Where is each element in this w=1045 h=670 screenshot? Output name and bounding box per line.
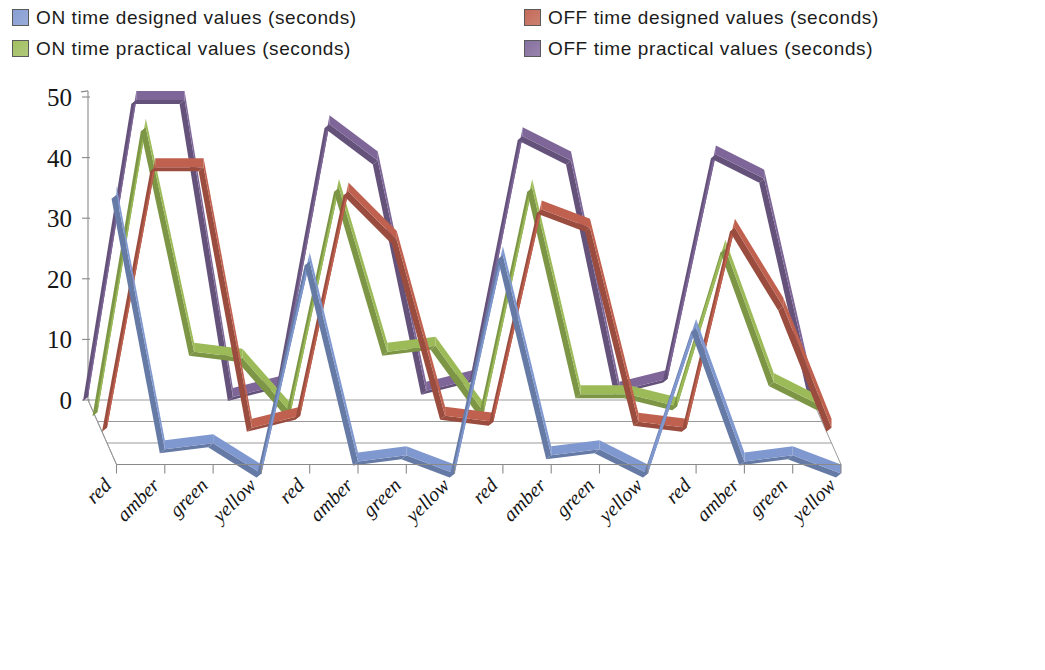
ribbon-top-face bbox=[668, 145, 716, 378]
chart-legend: ON time designed values (seconds) OFF ti… bbox=[12, 2, 1037, 64]
legend-item-on-practical[interactable]: ON time practical values (seconds) bbox=[12, 33, 524, 64]
x-axis-tick-label: green bbox=[744, 474, 792, 522]
y-axis-tick-label: 0 bbox=[60, 387, 73, 414]
x-axis-tick-label: yellow bbox=[786, 473, 841, 528]
legend-swatch-purple-icon bbox=[524, 40, 541, 57]
legend-row-1: ON time designed values (seconds) OFF ti… bbox=[12, 2, 1037, 33]
x-axis-tick-label: red bbox=[661, 473, 696, 508]
x-axis-tick-label: amber bbox=[498, 474, 550, 526]
ribbon-top-face bbox=[136, 91, 184, 100]
x-axis-tick-label: green bbox=[551, 474, 599, 522]
legend-swatch-red-icon bbox=[524, 9, 541, 26]
legend-label-on-practical: ON time practical values (seconds) bbox=[36, 38, 351, 60]
ribbon-top-face bbox=[98, 119, 146, 413]
x-axis-tick-label: green bbox=[165, 474, 213, 522]
y-axis-tick-label: 30 bbox=[47, 205, 72, 232]
ribbon-top-face bbox=[330, 115, 378, 160]
x-axis-tick-label: yellow bbox=[206, 473, 261, 528]
chart-canvas: 01020304050 redambergreenyellowredamberg… bbox=[0, 64, 1045, 670]
ribbon-side-face bbox=[150, 167, 203, 171]
x-axis-tick-label: amber bbox=[112, 474, 164, 526]
x-axis-tick-label: red bbox=[275, 473, 310, 508]
legend-label-on-designed: ON time designed values (seconds) bbox=[36, 7, 357, 29]
ribbon-side-face bbox=[373, 161, 426, 395]
ribbon-side-face bbox=[199, 167, 252, 432]
x-axis-tick-label: green bbox=[358, 474, 406, 522]
ribbon-top-face bbox=[581, 385, 629, 394]
chart-page: ON time designed values (seconds) OFF ti… bbox=[0, 0, 1045, 670]
ribbon-side-face bbox=[576, 394, 629, 398]
x-axis-tick-label: amber bbox=[305, 474, 357, 526]
legend-swatch-green-icon bbox=[12, 40, 29, 57]
y-axis-cap bbox=[81, 91, 88, 92]
ribbon-side-face bbox=[131, 100, 184, 104]
ribbon-top-face bbox=[155, 158, 203, 167]
ribbon-side-face bbox=[325, 124, 378, 164]
legend-item-on-designed[interactable]: ON time designed values (seconds) bbox=[12, 2, 524, 33]
y-axis-tick-label: 40 bbox=[47, 145, 72, 172]
ribbon-top-face bbox=[88, 91, 136, 397]
y-axis-tick-label: 50 bbox=[47, 84, 72, 111]
x-axis-tick-label: red bbox=[81, 473, 116, 508]
y-axis-tick-label: 10 bbox=[47, 326, 72, 353]
x-axis-tick-label: yellow bbox=[593, 473, 648, 528]
legend-swatch-blue-icon bbox=[12, 9, 29, 26]
legend-item-off-designed[interactable]: OFF time designed values (seconds) bbox=[524, 2, 879, 33]
ribbon-top-face bbox=[146, 119, 194, 352]
x-axis-tick-label: amber bbox=[692, 474, 744, 526]
ribbon-top-face bbox=[300, 182, 348, 415]
x-axis-tick-label: yellow bbox=[400, 473, 455, 528]
legend-label-off-practical: OFF time practical values (seconds) bbox=[548, 38, 873, 60]
x-axis-tick-label: red bbox=[468, 473, 503, 508]
legend-row-2: ON time practical values (seconds) OFF t… bbox=[12, 33, 1037, 64]
x-axis: redambergreenyellowredambergreenyellowre… bbox=[81, 465, 841, 529]
legend-label-off-designed: OFF time designed values (seconds) bbox=[548, 7, 879, 29]
ribbon-side-face bbox=[392, 240, 445, 420]
legend-item-off-practical[interactable]: OFF time practical values (seconds) bbox=[524, 33, 873, 64]
chart-plot-area: 01020304050 redambergreenyellowredamberg… bbox=[0, 64, 1045, 670]
y-axis-tick-label: 20 bbox=[47, 266, 72, 293]
